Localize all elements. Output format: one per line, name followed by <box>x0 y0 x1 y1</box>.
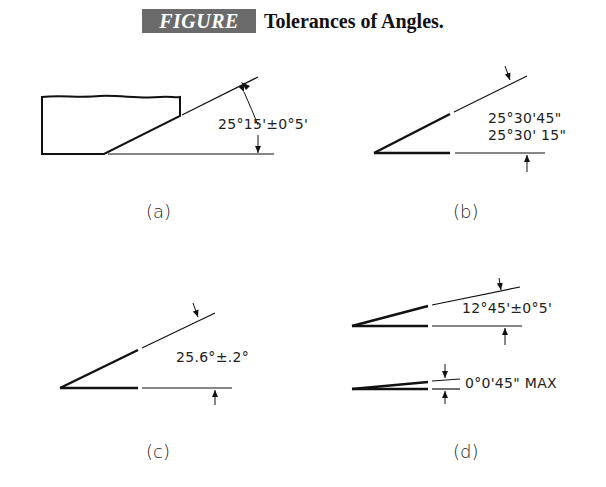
dimension-b-upper: 25°30'45" <box>488 110 561 126</box>
dimension-d-top: 12°45'±0°5' <box>462 300 552 316</box>
caption-d: (d) <box>453 441 478 462</box>
caption-a: (a) <box>146 201 171 222</box>
dimension-d-max: 0°0'45" MAX <box>465 375 557 391</box>
panel-d-bottom-drawing <box>352 364 460 404</box>
dimension-b-lower: 25°30' 15" <box>488 127 566 143</box>
technical-drawing <box>0 0 606 487</box>
dimension-c: 25.6°±.2° <box>176 349 249 365</box>
caption-c: (c) <box>146 441 170 462</box>
dimension-a: 25°15'±0°5' <box>218 116 308 132</box>
caption-b: (b) <box>453 201 478 222</box>
